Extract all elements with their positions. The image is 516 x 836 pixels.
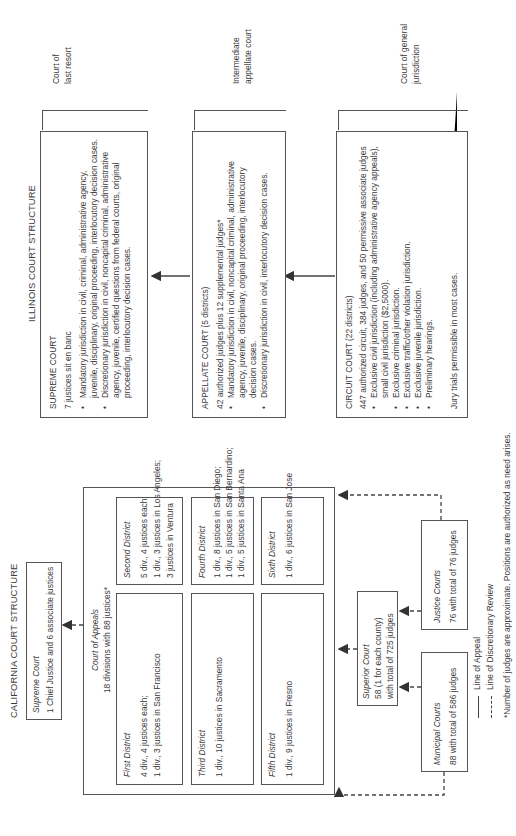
rotated-diagram-page: ILLINOIS COURT STRUCTURE SUPREME COURT 7… [0, 0, 516, 836]
il-circuit-to-supreme-connector [0, 0, 516, 836]
